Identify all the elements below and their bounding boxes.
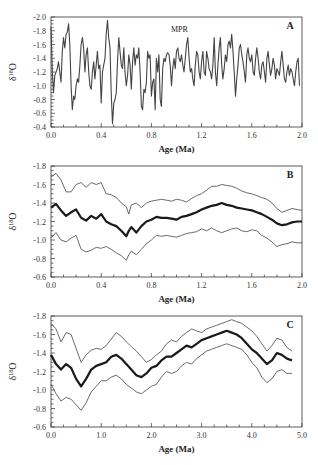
series-line-upper-envelope bbox=[51, 173, 302, 214]
series-line-mean bbox=[51, 203, 302, 236]
y-tick-label: -1.4 bbox=[33, 349, 46, 358]
x-tick-label: 1.2 bbox=[197, 131, 207, 140]
y-axis-label: δ18O bbox=[7, 213, 18, 231]
y-tick-label: -1.6 bbox=[33, 41, 46, 50]
y-tick-label: -1.8 bbox=[33, 27, 46, 36]
y-tick-label: -1.0 bbox=[33, 236, 46, 245]
y-tick-label: -1.4 bbox=[33, 199, 46, 208]
panel-b: 0.00.40.81.21.62.0-1.8-1.6-1.4-1.2-1.0-0… bbox=[7, 162, 307, 304]
x-tick-label: 2.0 bbox=[297, 131, 307, 140]
y-tick-label: -0.6 bbox=[33, 109, 46, 118]
x-tick-label: 1.6 bbox=[247, 131, 257, 140]
y-tick-label: -1.2 bbox=[33, 218, 46, 227]
x-axis-label: Age (Ma) bbox=[158, 444, 194, 454]
panel-letter: B bbox=[287, 169, 294, 180]
series-line-lower-envelope bbox=[51, 228, 302, 260]
x-axis-label: Age (Ma) bbox=[158, 144, 194, 154]
series-line-mean bbox=[51, 331, 292, 387]
y-tick-label: -0.6 bbox=[33, 273, 46, 282]
figure: 0.00.40.81.21.62.0-2.0-1.8-1.6-1.4-1.2-1… bbox=[0, 0, 318, 465]
y-tick-label: -1.0 bbox=[33, 82, 46, 91]
y-tick-label: -0.8 bbox=[33, 255, 46, 264]
x-tick-label: 5.0 bbox=[297, 431, 307, 440]
y-tick-label: -1.6 bbox=[33, 181, 46, 190]
x-tick-label: 0.0 bbox=[46, 431, 56, 440]
y-tick-label: -1.2 bbox=[33, 68, 46, 77]
y-tick-label: -1.4 bbox=[33, 54, 46, 63]
x-axis-label: Age (Ma) bbox=[158, 294, 194, 304]
x-tick-label: 2.0 bbox=[146, 431, 156, 440]
x-tick-label: 0.8 bbox=[146, 131, 156, 140]
panel-c: 0.01.02.03.04.05.0-1.8-1.6-1.4-1.2-1.0-0… bbox=[7, 312, 307, 454]
y-tick-label: -1.0 bbox=[33, 386, 46, 395]
y-tick-label: -0.6 bbox=[33, 423, 46, 432]
series-line--18o-record bbox=[51, 20, 300, 123]
y-axis-label: δ18O bbox=[7, 63, 18, 81]
panel-letter: C bbox=[286, 319, 293, 330]
x-tick-label: 0.8 bbox=[146, 281, 156, 290]
plot-frame bbox=[51, 166, 302, 277]
y-tick-label: -2.0 bbox=[33, 13, 46, 22]
x-tick-label: 3.0 bbox=[197, 431, 207, 440]
y-tick-label: -1.6 bbox=[33, 331, 46, 340]
annotation-label: MPR bbox=[171, 25, 189, 34]
x-tick-label: 1.0 bbox=[96, 431, 106, 440]
x-tick-label: 0.0 bbox=[46, 281, 56, 290]
panel-a: 0.00.40.81.21.62.0-2.0-1.8-1.6-1.4-1.2-1… bbox=[7, 13, 307, 154]
y-tick-label: -1.8 bbox=[33, 162, 46, 171]
x-tick-label: 2.0 bbox=[297, 281, 307, 290]
y-tick-label: -0.4 bbox=[33, 123, 46, 132]
x-tick-label: 4.0 bbox=[247, 431, 257, 440]
x-tick-label: 0.4 bbox=[96, 131, 106, 140]
y-tick-label: -1.2 bbox=[33, 368, 46, 377]
y-axis-label: δ18O bbox=[7, 363, 18, 381]
x-tick-label: 1.2 bbox=[197, 281, 207, 290]
x-tick-label: 0.0 bbox=[46, 131, 56, 140]
y-tick-label: -0.8 bbox=[33, 405, 46, 414]
x-tick-label: 1.6 bbox=[247, 281, 257, 290]
x-tick-label: 0.4 bbox=[96, 281, 106, 290]
panel-letter: A bbox=[286, 20, 294, 31]
y-tick-label: -1.8 bbox=[33, 312, 46, 321]
y-tick-label: -0.8 bbox=[33, 96, 46, 105]
